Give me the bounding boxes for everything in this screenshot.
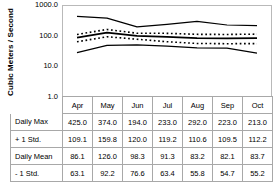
table-cell: 63.4: [153, 165, 183, 182]
table-month-header-may: May: [93, 97, 123, 114]
table-month-header-jun: Jun: [123, 97, 153, 114]
table-month-header-jul: Jul: [153, 97, 183, 114]
table-body: Daily Max425.0374.0194.0233.0292.0223.02…: [11, 114, 273, 183]
table-cell: 83.7: [243, 148, 273, 165]
table-cell: 92.2: [93, 165, 123, 182]
data-table-wrapper: AprMayJunJulAugSepOct Daily Max425.0374.…: [10, 96, 272, 182]
table-cell: 86.1: [63, 148, 93, 165]
series-line-daily-min: [77, 45, 257, 53]
table-cell: 76.6: [123, 165, 153, 182]
table-cell: 40.2: [183, 182, 213, 183]
table-cell: 91.3: [153, 148, 183, 165]
table-cell: 83.2: [183, 148, 213, 165]
y-tick-label-1: 100.0: [2, 32, 58, 40]
table-cell: 50.0: [123, 182, 153, 183]
table-row: + 1 Std.109.1159.8120.0119.2110.6109.511…: [11, 131, 273, 148]
table-row-label: + 1 Std.: [11, 131, 63, 148]
table-month-header-aug: Aug: [183, 97, 213, 114]
table-cell: 55.2: [243, 165, 273, 182]
table-month-header-sep: Sep: [213, 97, 243, 114]
table-cell: 233.0: [153, 114, 183, 131]
chart-figure: Cubic Meters / Second 1000.0100.010.01.0…: [0, 0, 280, 182]
table-cell: 54.7: [213, 165, 243, 182]
table-cell: 120.0: [123, 131, 153, 148]
table-row-label: Daily Mean: [11, 148, 63, 165]
table-cell: 45.3: [153, 182, 183, 183]
table-row-label: - 1 Std.: [11, 165, 63, 182]
table-row: Daily Max425.0374.0194.0233.0292.0223.02…: [11, 114, 273, 131]
table-cell: 27.0: [243, 182, 273, 183]
table-cell: 28.0: [63, 182, 93, 183]
series-line-daily-max: [77, 16, 257, 26]
table-cell: 119.2: [153, 131, 183, 148]
table-cell: 109.5: [213, 131, 243, 148]
table-cell: 109.1: [63, 131, 93, 148]
table-cell: 63.1: [63, 165, 93, 182]
table-cell: 425.0: [63, 114, 93, 131]
table-cell: 39.1: [213, 182, 243, 183]
table-row: Daily Mean86.1126.098.391.383.282.183.7: [11, 148, 273, 165]
table-month-header-apr: Apr: [63, 97, 93, 114]
table-cell: 374.0: [93, 114, 123, 131]
table-cell: 194.0: [123, 114, 153, 131]
y-tick-label-0: 1000.0: [2, 1, 58, 9]
y-tick-label-2: 10.0: [2, 62, 58, 70]
table-cell: 98.3: [123, 148, 153, 165]
plot-area: [62, 5, 272, 97]
table-row-label: Daily Min.: [11, 182, 63, 183]
table-cell: 55.8: [183, 165, 213, 182]
table-header: AprMayJunJulAugSepOct: [11, 97, 273, 114]
series-lines: [62, 5, 272, 97]
table-cell: 159.8: [93, 131, 123, 148]
table-cell: 126.0: [93, 148, 123, 165]
table-header-row: AprMayJunJulAugSepOct: [11, 97, 273, 114]
table-cell: 112.2: [243, 131, 273, 148]
table-corner-cell: [11, 97, 63, 114]
table-row: Daily Min.28.048.150.045.340.239.127.0: [11, 182, 273, 183]
table-row-label: Daily Max: [11, 114, 63, 131]
table-cell: 292.0: [183, 114, 213, 131]
table-cell: 48.1: [93, 182, 123, 183]
table-cell: 110.6: [183, 131, 213, 148]
data-table: AprMayJunJulAugSepOct Daily Max425.0374.…: [10, 96, 273, 182]
table-cell: 213.0: [243, 114, 273, 131]
table-cell: 223.0: [213, 114, 243, 131]
table-row: - 1 Std.63.192.276.663.455.854.755.2: [11, 165, 273, 182]
table-cell: 82.1: [213, 148, 243, 165]
y-axis-tick-labels: 1000.0100.010.01.0: [0, 0, 58, 97]
table-month-header-oct: Oct: [243, 97, 273, 114]
